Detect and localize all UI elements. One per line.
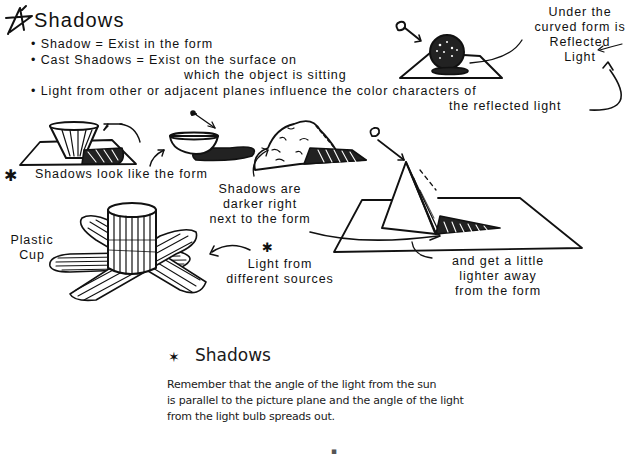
note-line: Light from (215, 257, 345, 272)
note-line: and get a little (438, 254, 558, 269)
darker-shadow-note: Shadows are darker right next to the for… (200, 182, 320, 227)
bullet-cast-shadow-definition: • Cast Shadows = Exist on the surface on (31, 53, 297, 67)
bullet-shadow-definition: • Shadow = Exist in the form (31, 37, 213, 51)
pyramid-sketch (310, 128, 582, 258)
plastic-cup-label: Plastic Cup (4, 233, 60, 263)
note-line: lighter away (438, 269, 558, 284)
note-line: curved form is (530, 20, 630, 35)
body-line: is parallel to the picture plane and the… (167, 393, 464, 409)
bullet-text: Light from other or adjacent planes infl… (41, 84, 477, 98)
top-title: Shadows (34, 9, 125, 32)
star-icon: ✱ (262, 240, 273, 255)
page-marker: ▪ (331, 446, 337, 456)
bottom-title: Shadows (195, 345, 271, 365)
cone-cup-sketch (20, 122, 140, 165)
rock-sketch (253, 121, 366, 176)
note-line: Light (530, 50, 630, 65)
reflected-light-note: Under the curved form is Reflected Light (530, 5, 630, 65)
note-line: Shadows are (200, 182, 320, 197)
light-sources-note: Light from different sources (215, 257, 345, 287)
bullet-cast-shadow-continuation: which the object is sitting (184, 68, 347, 82)
shadows-look-like-form-note: Shadows look like the form (35, 167, 208, 181)
title-star-icon (6, 6, 32, 34)
note-line: next to the form (200, 212, 320, 227)
note-line: darker right (200, 197, 320, 212)
bowl-sketch (150, 111, 254, 166)
note-line: Reflected (530, 35, 630, 50)
star-icon: ✶ (168, 349, 180, 365)
lighter-shadow-note: and get a little lighter away from the f… (438, 254, 558, 299)
bullet-text: Cast Shadows = Exist on the surface on (41, 53, 297, 67)
body-line: from the light bulb spreads out. (167, 409, 464, 425)
bullet-adjacent-planes: • Light from other or adjacent planes in… (31, 84, 477, 98)
bullet-adjacent-planes-continuation: the reflected light (449, 99, 561, 113)
star-icon: ✱ (4, 166, 17, 185)
note-line: from the form (438, 284, 558, 299)
bottom-body-text: Remember that the angle of the light fro… (167, 377, 464, 425)
bullet-text: Shadow = Exist in the form (41, 37, 213, 51)
note-line: different sources (215, 272, 345, 287)
label-line: Cup (4, 248, 60, 263)
note-line: Under the (530, 5, 630, 20)
label-line: Plastic (4, 233, 60, 248)
body-line: Remember that the angle of the light fro… (167, 377, 464, 393)
